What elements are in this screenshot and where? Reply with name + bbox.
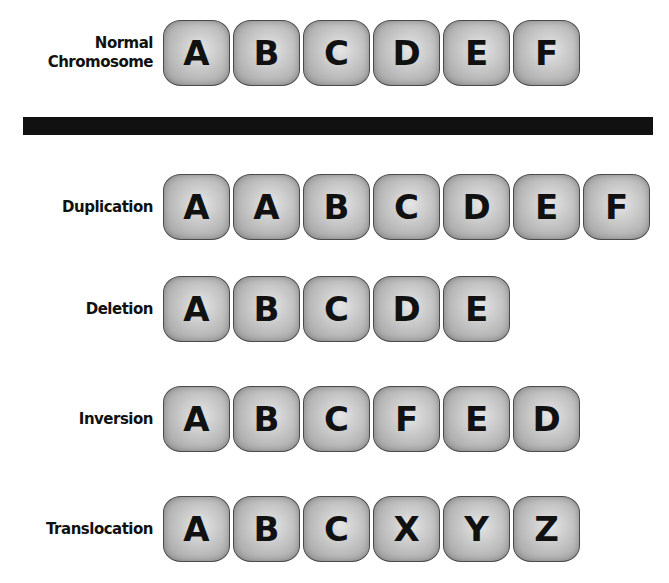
gene-segment: A [163, 20, 230, 86]
gene-segment: B [233, 386, 300, 452]
gene-segment: E [443, 20, 510, 86]
row-label-deletion: Deletion [86, 300, 153, 319]
chromosome-segments: A B C D E [163, 276, 513, 342]
gene-segment: A [233, 174, 300, 240]
gene-segment: C [303, 20, 370, 86]
gene-segment: C [303, 496, 370, 562]
gene-segment: D [373, 20, 440, 86]
gene-segment: D [443, 174, 510, 240]
row-label-inversion: Inversion [79, 410, 153, 429]
gene-segment: F [513, 20, 580, 86]
gene-segment: Y [443, 496, 510, 562]
chromosome-segments: A B C F E D [163, 386, 583, 452]
gene-segment: F [583, 174, 650, 240]
row-deletion: Deletion A B C D E [0, 276, 669, 346]
gene-segment: A [163, 174, 230, 240]
gene-segment: E [513, 174, 580, 240]
gene-segment: F [373, 386, 440, 452]
gene-segment: B [303, 174, 370, 240]
row-duplication: Duplication A A B C D E F [0, 174, 669, 244]
chromosome-segments: A B C X Y Z [163, 496, 583, 562]
row-normal-chromosome: Normal Chromosome A B C D E F [0, 20, 669, 90]
gene-segment: A [163, 386, 230, 452]
gene-segment: B [233, 20, 300, 86]
gene-segment: X [373, 496, 440, 562]
gene-segment: C [303, 386, 370, 452]
gene-segment: B [233, 496, 300, 562]
gene-segment: A [163, 276, 230, 342]
gene-segment: A [163, 496, 230, 562]
gene-segment: C [373, 174, 440, 240]
gene-segment: Z [513, 496, 580, 562]
label-line-normal: Normal [48, 34, 153, 53]
divider-bar [23, 117, 653, 135]
row-label-normal: Normal Chromosome [48, 34, 153, 72]
gene-segment: B [233, 276, 300, 342]
gene-segment: C [303, 276, 370, 342]
row-translocation: Translocation A B C X Y Z [0, 496, 669, 566]
gene-segment: D [513, 386, 580, 452]
row-label-translocation: Translocation [46, 520, 153, 539]
chromosome-segments: A B C D E F [163, 20, 583, 86]
gene-segment: D [373, 276, 440, 342]
chromosome-segments: A A B C D E F [163, 174, 653, 240]
gene-segment: E [443, 386, 510, 452]
gene-segment: E [443, 276, 510, 342]
label-line-chromosome: Chromosome [48, 53, 153, 72]
row-label-duplication: Duplication [62, 198, 153, 217]
row-inversion: Inversion A B C F E D [0, 386, 669, 456]
